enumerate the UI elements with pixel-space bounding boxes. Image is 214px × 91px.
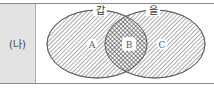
region-label-b: B: [126, 40, 133, 50]
set-label-eul: 을: [149, 5, 158, 16]
region-label-c: C: [159, 40, 166, 50]
venn-diagram: 갑 을 A B C: [0, 0, 214, 91]
set-label-gap: 갑: [96, 5, 105, 16]
region-label-a: A: [88, 40, 96, 50]
